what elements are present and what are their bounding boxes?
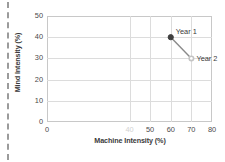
x-axis-title: Machine Intensity (%) <box>47 136 213 145</box>
data-point-marker <box>168 35 173 40</box>
chart-figure: Mind Intensity (%) 50403020100 040506070… <box>0 0 225 162</box>
data-point-marker <box>189 56 193 60</box>
series-line <box>171 37 192 58</box>
data-point-label: Year 2 <box>196 55 217 63</box>
data-point-label: Year 1 <box>176 28 197 36</box>
